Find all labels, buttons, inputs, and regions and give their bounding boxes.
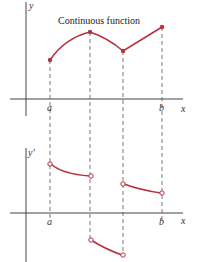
open-endpoints — [48, 162, 164, 257]
derivative-diagram: y x a b Continuous function y' x a b — [0, 0, 197, 262]
function-curve — [50, 27, 162, 60]
bottom-a-label: a — [47, 216, 52, 227]
top-a-label: a — [47, 102, 52, 113]
bottom-x-label: x — [180, 215, 186, 226]
bottom-b-label: b — [159, 216, 164, 227]
bottom-y-label: y' — [27, 147, 35, 158]
bottom-axes — [10, 148, 183, 262]
top-x-label: x — [180, 103, 186, 114]
top-b-label: b — [159, 102, 164, 113]
dashed-guides — [50, 27, 162, 255]
derivative-curves — [51, 164, 161, 255]
top-title: Continuous function — [58, 15, 140, 26]
top-y-label: y — [28, 0, 34, 11]
